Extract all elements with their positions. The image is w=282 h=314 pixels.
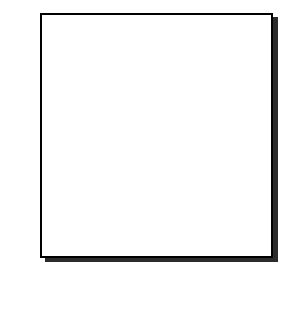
chart-legend xyxy=(0,297,282,313)
x-axis-tick-labels xyxy=(42,261,271,277)
y-axis-tick-labels xyxy=(0,0,38,314)
bars-container xyxy=(42,15,271,256)
